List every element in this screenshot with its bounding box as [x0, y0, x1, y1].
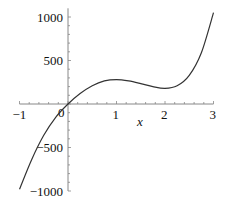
ticks [20, 17, 214, 191]
x-tick-label: 3 [210, 107, 217, 122]
function-curve [20, 13, 214, 190]
x-tick-label: 1 [113, 107, 120, 122]
y-tick-label: 500 [44, 53, 64, 68]
x-axis-label: x [136, 114, 143, 129]
y-tick-label: 1000 [37, 10, 63, 25]
x-tick-label: −1 [13, 107, 27, 122]
axes [20, 8, 214, 191]
x-tick-label: 2 [161, 107, 168, 122]
y-tick-label: −1000 [30, 184, 63, 199]
plot-canvas: −101231000500−500−1000 x [0, 0, 227, 210]
